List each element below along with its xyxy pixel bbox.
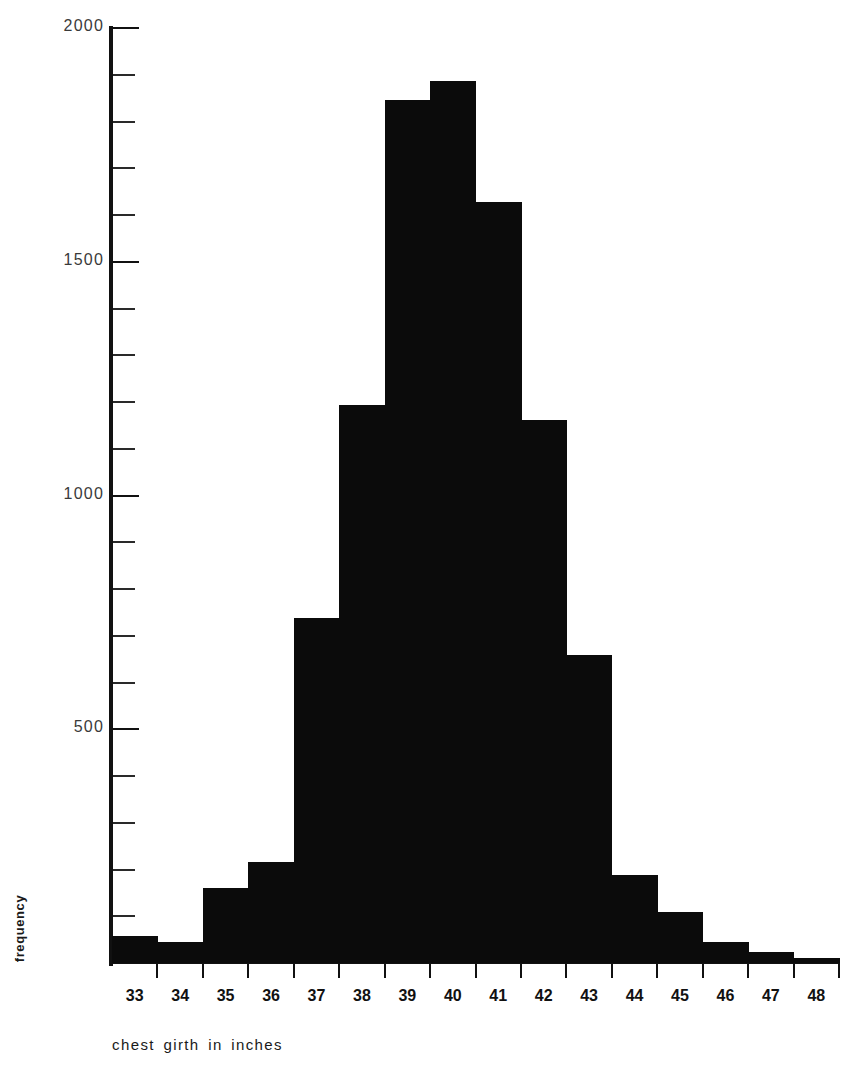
x-axis-tick-label: 40 — [444, 987, 462, 1005]
histogram-bar — [385, 100, 431, 963]
x-axis-tick-label: 43 — [580, 987, 598, 1005]
x-axis-tick — [793, 964, 795, 978]
x-axis-tick — [338, 964, 340, 978]
histogram-bar — [748, 952, 794, 963]
x-axis-tick — [838, 964, 840, 978]
histogram-bar — [521, 420, 567, 963]
histogram-bar — [476, 202, 522, 963]
x-axis-tick-label: 37 — [308, 987, 326, 1005]
x-axis-tick — [475, 964, 477, 978]
histogram-bar — [657, 912, 703, 963]
histogram-bar — [203, 888, 249, 963]
histogram-bar — [430, 81, 476, 963]
x-axis-tick-label: 33 — [126, 987, 144, 1005]
y-axis-tick-label: 1000 — [40, 485, 104, 503]
histogram-bar — [566, 655, 612, 963]
histogram-bar — [112, 936, 158, 963]
x-axis-tick — [702, 964, 704, 978]
x-axis-tick-label: 34 — [171, 987, 189, 1005]
x-axis-tick — [611, 964, 613, 978]
x-axis-tick — [520, 964, 522, 978]
x-axis-tick — [656, 964, 658, 978]
y-axis-tick-label: 1500 — [40, 251, 104, 269]
x-axis-tick — [565, 964, 567, 978]
x-axis-tick-label: 46 — [717, 987, 735, 1005]
x-axis-tick-label: 45 — [671, 987, 689, 1005]
x-axis-tick-label: 44 — [626, 987, 644, 1005]
histogram-figure: 500100015002000 333435363738394041424344… — [0, 0, 863, 1082]
x-axis-tick-label: 42 — [535, 987, 553, 1005]
x-axis-tick-label: 48 — [807, 987, 825, 1005]
x-axis-tick — [293, 964, 295, 978]
y-axis-tick-label: 2000 — [40, 17, 104, 35]
x-axis-tick-label: 39 — [398, 987, 416, 1005]
x-axis-tick — [429, 964, 431, 978]
x-axis-tick — [202, 964, 204, 978]
histogram-bar — [612, 875, 658, 963]
x-axis-tick — [747, 964, 749, 978]
histogram-bar — [157, 942, 203, 963]
x-axis-tick-label: 41 — [489, 987, 507, 1005]
x-axis-tick — [156, 964, 158, 978]
histogram-bar — [794, 958, 840, 963]
x-axis-tick-label: 35 — [217, 987, 235, 1005]
plot-area — [112, 28, 839, 963]
x-axis-title: chest girth in inches — [112, 1036, 283, 1053]
histogram-bar — [248, 862, 294, 963]
x-axis-tick — [247, 964, 249, 978]
x-axis-tick-label: 38 — [353, 987, 371, 1005]
histogram-bar — [339, 405, 385, 963]
x-axis-tick-label: 36 — [262, 987, 280, 1005]
y-axis-title: frequency — [12, 887, 27, 971]
x-axis-tick — [384, 964, 386, 978]
histogram-bar — [294, 618, 340, 963]
histogram-bar — [703, 942, 749, 963]
y-axis-tick-label: 500 — [40, 718, 104, 736]
x-axis-tick-label: 47 — [762, 987, 780, 1005]
